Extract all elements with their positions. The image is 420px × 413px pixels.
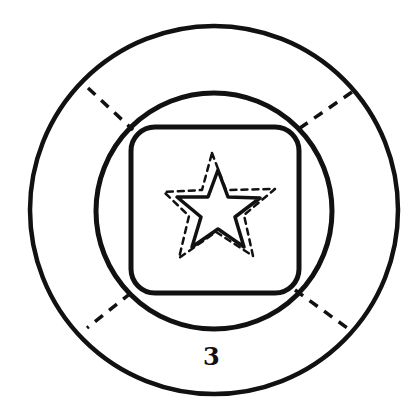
figure-label: 3: [203, 342, 220, 371]
